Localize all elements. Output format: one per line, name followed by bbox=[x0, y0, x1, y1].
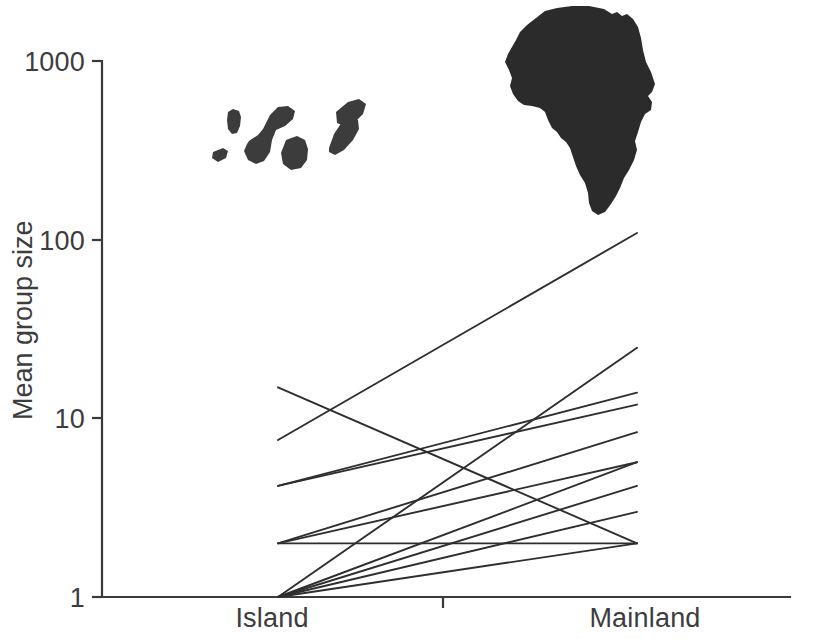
y-tick-label-10: 10 bbox=[55, 404, 85, 434]
series-line bbox=[278, 233, 637, 440]
island-silhouette bbox=[212, 99, 366, 170]
y-tick-label-1: 1 bbox=[70, 583, 85, 613]
series-line bbox=[278, 543, 637, 597]
y-tick-label-100: 100 bbox=[39, 226, 85, 256]
x-tick-label-mainland: Mainland bbox=[589, 603, 700, 633]
x-tick-label-island: Island bbox=[235, 603, 308, 633]
series-lines-group bbox=[278, 233, 637, 597]
series-line bbox=[278, 387, 637, 543]
chart-plot-area: 1000 100 10 1 Mean group size Island Mai… bbox=[0, 0, 831, 639]
series-line bbox=[278, 512, 637, 597]
chart-figure: 1000 100 10 1 Mean group size Island Mai… bbox=[0, 0, 831, 639]
y-axis-title: Mean group size bbox=[8, 220, 38, 420]
series-line bbox=[278, 462, 637, 597]
series-line bbox=[278, 432, 637, 543]
africa-silhouette bbox=[505, 6, 655, 215]
y-tick-label-1000: 1000 bbox=[24, 47, 85, 77]
